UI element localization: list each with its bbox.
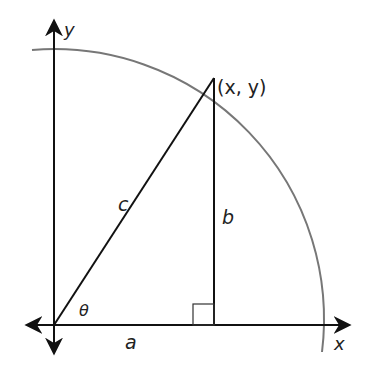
x-axis-label: x xyxy=(333,333,345,354)
right-angle-marker xyxy=(193,304,214,325)
angle-theta-label: θ xyxy=(79,301,89,320)
y-axis-label: y xyxy=(63,19,75,40)
hypotenuse-c xyxy=(54,78,214,325)
point-label: (x, y) xyxy=(217,76,266,98)
hypotenuse-label: c xyxy=(118,193,129,215)
leg-b-label: b xyxy=(222,206,234,228)
leg-a-label: a xyxy=(125,331,137,353)
unit-circle-diagram: y x (x, y) c b a θ xyxy=(0,0,367,367)
circle-arc xyxy=(32,49,324,352)
